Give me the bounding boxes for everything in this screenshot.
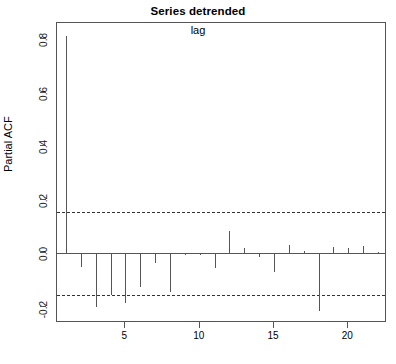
pacf-plot-figure: Series detrended -0.20.00.20.40.60.8 Par… [0, 0, 396, 364]
y-tick-label: -0.2 [39, 301, 49, 318]
lower-confidence-line [57, 295, 385, 296]
x-tick-mark [124, 322, 125, 328]
pacf-spike [200, 253, 201, 254]
zero-line [57, 253, 385, 254]
page-title: Series detrended [0, 5, 396, 17]
upper-confidence-line [57, 212, 385, 213]
x-tick-label: 20 [342, 330, 353, 341]
plot-area [56, 22, 386, 322]
x-tick-label: 10 [193, 330, 204, 341]
y-axis: -0.20.00.20.40.60.8 [0, 0, 56, 364]
pacf-spike [155, 253, 156, 262]
x-axis-title: lag [0, 24, 396, 36]
pacf-spike [259, 253, 260, 256]
y-tick-label: 0.2 [39, 194, 49, 208]
pacf-spike [185, 253, 186, 254]
pacf-spike [244, 248, 245, 253]
pacf-spike [170, 253, 171, 292]
pacf-spike [289, 245, 290, 253]
pacf-spike [96, 253, 97, 307]
pacf-spike [333, 247, 334, 253]
y-tick-label: 0.0 [39, 247, 49, 261]
pacf-spike [140, 253, 141, 286]
pacf-spike [363, 246, 364, 254]
pacf-spike [319, 253, 320, 311]
pacf-spike [125, 253, 126, 303]
x-tick-mark [347, 322, 348, 328]
pacf-spike [229, 231, 230, 254]
pacf-spike [304, 251, 305, 253]
pacf-spike [378, 252, 379, 254]
pacf-spike [81, 253, 82, 266]
pacf-spike [348, 248, 349, 253]
x-tick-label: 5 [122, 330, 128, 341]
x-tick-label: 15 [267, 330, 278, 341]
y-tick-label: 0.6 [39, 87, 49, 101]
x-tick-mark [273, 322, 274, 328]
pacf-spike [274, 253, 275, 272]
pacf-spike [215, 253, 216, 268]
x-tick-mark [199, 322, 200, 328]
y-tick-label: 0.4 [39, 140, 49, 154]
pacf-spike [66, 36, 67, 253]
y-axis-title: Partial ACF [2, 116, 14, 172]
pacf-spike [111, 253, 112, 295]
x-axis: 5101520 [0, 322, 396, 364]
